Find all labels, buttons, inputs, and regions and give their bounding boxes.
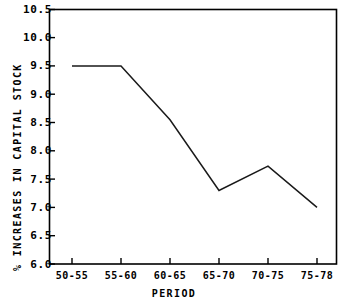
y-tick-label-7-5: 7.5 <box>30 174 52 185</box>
y-axis-title: % INCREASES IN CAPITAL STOCK <box>12 63 23 271</box>
y-tick-label-10-5: 10.5 <box>23 4 52 15</box>
x-tick-label-55-60: 55-60 <box>93 271 149 281</box>
x-axis-ticks <box>72 258 317 264</box>
x-tick-label-65-70: 65-70 <box>191 271 247 281</box>
line-chart-plot <box>0 0 348 302</box>
y-axis-ticks <box>50 10 56 265</box>
data-series-line <box>72 66 317 207</box>
y-tick-label-6-5: 6.5 <box>30 230 52 241</box>
y-tick-label-7-0: 7.0 <box>30 202 52 213</box>
x-tick-label-75-78: 75-78 <box>289 271 345 281</box>
x-axis-title: PERIOD <box>0 288 348 299</box>
y-tick-label-9-5: 9.5 <box>30 60 52 71</box>
y-tick-label-9-0: 9.0 <box>30 89 52 100</box>
plot-border <box>50 10 337 265</box>
axes-frame <box>50 10 337 265</box>
y-tick-label-10-0: 10.0 <box>23 32 52 43</box>
y-tick-label-6-0: 6.0 <box>30 259 52 270</box>
chart-figure: 10.5 10.0 9.5 9.0 8.5 8.0 7.5 7.0 6.5 6.… <box>0 0 348 302</box>
x-tick-label-70-75: 70-75 <box>240 271 296 281</box>
y-tick-label-8-0: 8.0 <box>30 145 52 156</box>
x-tick-label-50-55: 50-55 <box>44 271 100 281</box>
x-tick-label-60-65: 60-65 <box>142 271 198 281</box>
y-tick-label-8-5: 8.5 <box>30 117 52 128</box>
